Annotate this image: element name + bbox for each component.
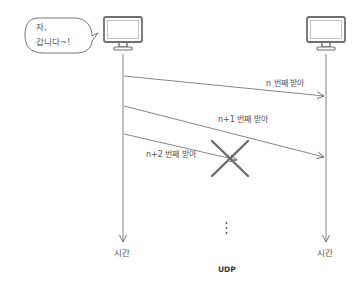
speech-bubble-line-2: 갑니다~! [36,38,71,47]
vertical-ellipsis-icon [226,222,228,234]
sender-time-label: 시간 [114,249,130,258]
receiver-time-label: 시간 [317,249,333,258]
speech-bubble-line-1: 자, [36,23,47,32]
sender-monitor-icon [104,17,142,50]
message-label-1: n 번째 받아 [266,80,304,88]
message-label-2: n+1 번째 받아 [218,116,268,124]
cross-icon [212,141,248,176]
message-label-3: n+2 번째 받아 [146,151,196,159]
diagram-caption: UDP [218,266,236,274]
receiver-monitor-icon [307,17,345,50]
